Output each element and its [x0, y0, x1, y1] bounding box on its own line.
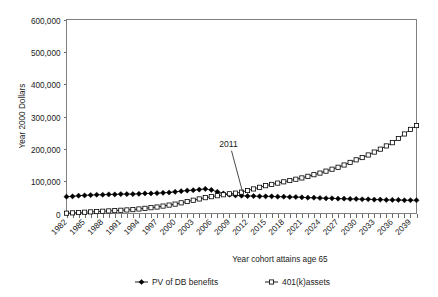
data-point-marker: [372, 150, 376, 154]
data-point-marker: [366, 197, 371, 202]
data-point-marker: [239, 190, 243, 194]
data-point-marker: [137, 207, 141, 211]
data-point-marker: [215, 194, 219, 198]
data-series-layer: [64, 123, 419, 215]
data-point-marker: [251, 193, 256, 198]
chart-figure: 600,000500,000400,000300,000200,000100,0…: [0, 0, 438, 297]
data-point-marker: [306, 174, 310, 178]
data-point-marker: [101, 209, 105, 213]
data-point-marker: [360, 197, 365, 202]
x-tick-label: 2018: [267, 217, 287, 237]
data-point-marker: [227, 192, 231, 196]
data-point-marker: [390, 197, 395, 202]
data-point-marker: [245, 193, 250, 198]
data-point-marker: [203, 186, 208, 191]
data-point-marker: [396, 197, 401, 202]
legend-label: 401(k)assets: [282, 277, 330, 287]
x-tick-label: 2033: [357, 217, 377, 237]
data-point-marker: [324, 169, 328, 173]
data-point-marker: [233, 191, 237, 195]
y-tick-label: 400,000: [31, 81, 61, 90]
data-point-marker: [293, 194, 298, 199]
data-point-marker: [414, 198, 419, 203]
x-axis-title: Year cohort attains age 65: [232, 255, 328, 264]
data-point-marker: [191, 188, 196, 193]
data-point-marker: [269, 194, 274, 199]
data-point-marker: [402, 198, 407, 203]
data-point-marker: [161, 204, 165, 208]
data-point-marker: [366, 153, 370, 157]
data-point-marker: [354, 158, 358, 162]
data-point-marker: [209, 195, 213, 199]
data-point-marker: [160, 190, 165, 195]
x-axis-tick-labels: 1982198519881991199419972000200320062009…: [50, 217, 414, 237]
data-point-marker: [341, 196, 346, 201]
data-point-marker: [414, 123, 418, 127]
data-point-marker: [83, 210, 87, 214]
data-point-marker: [323, 196, 328, 201]
data-point-marker: [107, 209, 111, 213]
data-point-marker: [317, 195, 322, 200]
data-point-marker: [185, 199, 189, 203]
data-point-marker: [119, 208, 123, 212]
x-tick-label: 2030: [339, 217, 359, 237]
y-axis-tick-labels: 600,000500,000400,000300,000200,000100,0…: [31, 17, 61, 220]
annotation-layer: 2011: [219, 139, 242, 192]
data-point-marker: [130, 192, 135, 197]
data-point-marker: [311, 195, 316, 200]
y-tick-label: 0: [56, 211, 61, 220]
data-point-marker: [209, 187, 214, 192]
y-tick-label: 600,000: [31, 17, 61, 26]
data-point-marker: [94, 192, 99, 197]
data-point-marker: [287, 194, 292, 199]
data-point-marker: [139, 279, 144, 284]
data-point-marker: [263, 194, 268, 199]
data-point-marker: [305, 195, 310, 200]
data-point-marker: [179, 201, 183, 205]
x-tick-label: 2021: [285, 217, 305, 237]
data-point-marker: [76, 193, 81, 198]
x-tick-label: 1988: [86, 217, 106, 237]
data-point-marker: [106, 192, 111, 197]
data-point-marker: [167, 203, 171, 207]
x-tick-label: 2009: [213, 217, 233, 237]
data-point-marker: [257, 194, 262, 199]
data-point-marker: [70, 194, 75, 199]
data-point-marker: [112, 192, 117, 197]
data-point-marker: [408, 127, 412, 131]
data-point-marker: [372, 197, 377, 202]
data-point-marker: [89, 210, 93, 214]
data-point-marker: [173, 189, 178, 194]
data-point-marker: [70, 211, 74, 215]
legend-label: PV of DB benefits: [152, 277, 218, 287]
data-point-marker: [154, 191, 159, 196]
series-2: [64, 123, 418, 215]
data-point-marker: [402, 132, 406, 136]
data-point-marker: [299, 195, 304, 200]
data-point-marker: [281, 194, 286, 199]
annotation-leader-line: [232, 151, 243, 192]
data-point-marker: [258, 185, 262, 189]
data-point-marker: [113, 208, 117, 212]
x-tick-label: 1991: [104, 217, 124, 237]
data-point-marker: [270, 182, 274, 186]
data-point-marker: [348, 196, 353, 201]
x-tick-label: 2003: [176, 217, 196, 237]
data-point-marker: [166, 190, 171, 195]
data-point-marker: [245, 188, 249, 192]
data-point-marker: [390, 141, 394, 145]
data-point-marker: [95, 209, 99, 213]
data-point-marker: [185, 188, 190, 193]
data-point-marker: [378, 147, 382, 151]
data-point-marker: [335, 196, 340, 201]
data-point-marker: [318, 171, 322, 175]
x-tick-label: 2027: [321, 217, 341, 237]
series-markers: [64, 123, 418, 215]
x-tick-label: 2015: [249, 217, 269, 237]
data-point-marker: [118, 192, 123, 197]
data-point-marker: [342, 163, 346, 167]
x-tick-label: 2000: [158, 217, 178, 237]
data-point-marker: [197, 187, 202, 192]
data-point-marker: [100, 192, 105, 197]
y-axis-title: Year 2000 Dollars: [18, 84, 27, 149]
